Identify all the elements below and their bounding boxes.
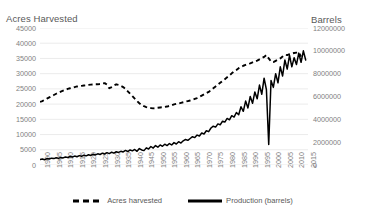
left-axis-tick-40000: 40000 [2, 39, 36, 48]
series-line-acres-harvested [40, 52, 301, 108]
left-axis-tick-5000: 5000 [2, 145, 36, 154]
legend-label-acres-harvested: Acres harvested [107, 196, 162, 205]
left-axis-title: Acres Harvested [6, 13, 78, 24]
right-axis-tick-12000000: 12000000 [313, 24, 361, 33]
left-axis-tick-10000: 10000 [2, 130, 36, 139]
chart-container: Acres Harvested Barrels 0500010000150002… [0, 0, 366, 224]
right-axis-tick-4000000: 4000000 [313, 115, 361, 124]
right-axis-tick-8000000: 8000000 [313, 69, 361, 78]
left-axis-tick-0: 0 [2, 161, 36, 170]
right-axis-tick-2000000: 2000000 [313, 138, 361, 147]
legend-item-production-barrels: Production (barrels) [188, 196, 293, 205]
left-axis-tick-35000: 35000 [2, 54, 36, 63]
chart-legend: Acres harvested Production (barrels) [0, 196, 366, 205]
left-axis-tick-20000: 20000 [2, 100, 36, 109]
x-axis-tick-2015: 2015 [309, 152, 318, 168]
right-axis-tick-6000000: 6000000 [313, 92, 361, 101]
left-axis-tick-15000: 15000 [2, 115, 36, 124]
legend-swatch-dashed [73, 197, 103, 205]
left-axis-tick-45000: 45000 [2, 24, 36, 33]
gridlines [40, 28, 308, 165]
right-axis-tick-0: 0 [313, 161, 361, 170]
legend-swatch-solid [188, 197, 222, 205]
plot-area [40, 28, 308, 165]
left-axis-tick-25000: 25000 [2, 84, 36, 93]
legend-item-acres-harvested: Acres harvested [73, 196, 162, 205]
left-axis-tick-30000: 30000 [2, 69, 36, 78]
legend-label-production-barrels: Production (barrels) [226, 196, 293, 205]
right-axis-tick-10000000: 10000000 [313, 46, 361, 55]
plot-svg [40, 28, 308, 165]
